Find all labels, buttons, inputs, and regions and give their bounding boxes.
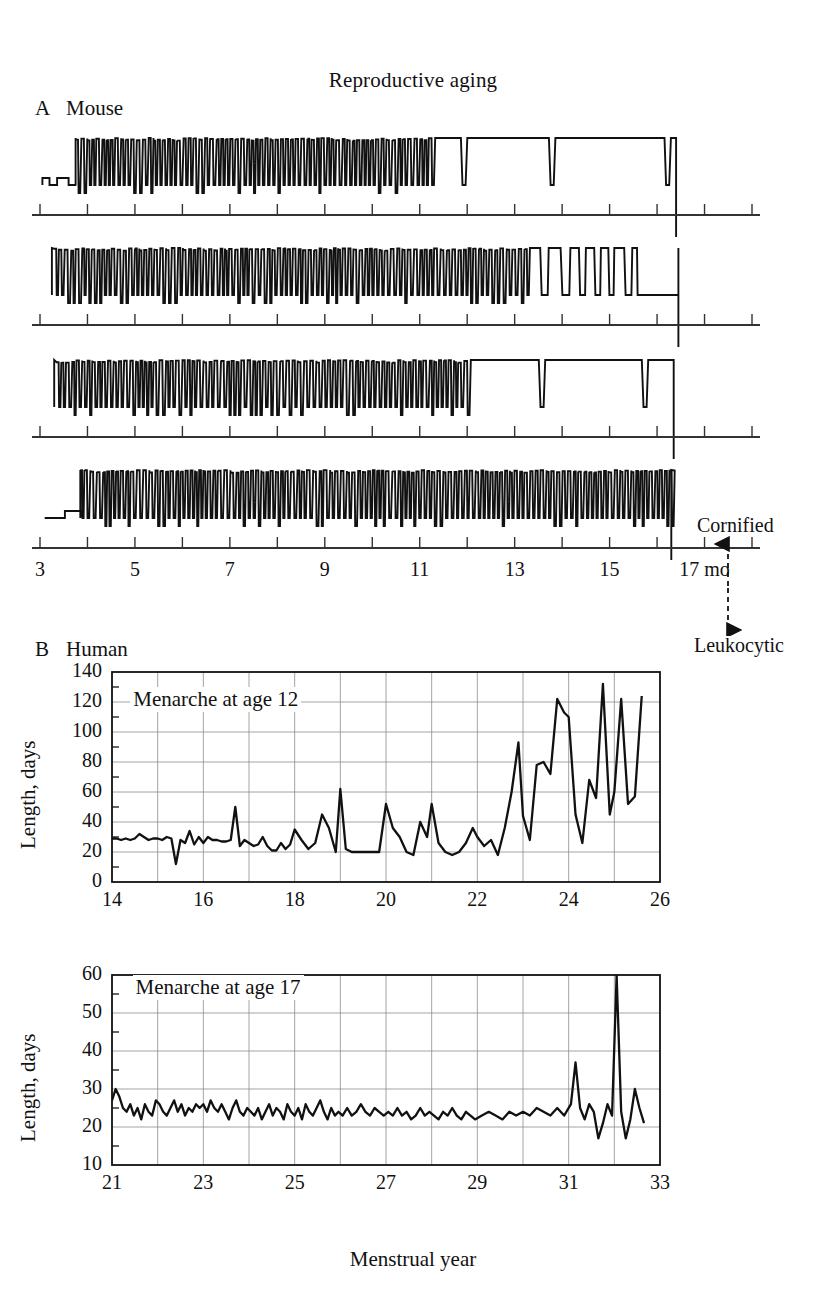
chart1-x-tick-16: 16	[163, 888, 243, 911]
mouse-estrous-traces	[0, 0, 826, 560]
chart1-y-tick-100: 100	[50, 719, 102, 742]
state-direction-arrow	[700, 536, 790, 636]
chart1-y-tick-120: 120	[50, 689, 102, 712]
chart1-y-tick-0: 0	[50, 869, 102, 892]
chart1-y-tick-20: 20	[50, 839, 102, 862]
mouse-x-tick-5: 5	[95, 558, 175, 581]
chart2-y-tick-50: 50	[50, 1000, 102, 1023]
chart1-x-tick-18: 18	[255, 888, 335, 911]
chart2-y-tick-60: 60	[50, 962, 102, 985]
chart2-y-tick-20: 20	[50, 1114, 102, 1137]
chart1-x-tick-24: 24	[529, 888, 609, 911]
leukocytic-label: Leukocytic	[694, 634, 784, 657]
chart-menarche-age-12	[0, 660, 826, 900]
chart1-x-tick-22: 22	[437, 888, 517, 911]
mouse-x-tick-9: 9	[285, 558, 365, 581]
chart2-x-tick-25: 25	[255, 1171, 335, 1194]
chart1-y-tick-40: 40	[50, 809, 102, 832]
mouse-x-tick-7: 7	[190, 558, 270, 581]
chart1-y-tick-140: 140	[50, 659, 102, 682]
chart1-annotation: Menarche at age 12	[130, 687, 301, 712]
x-axis-title: Menstrual year	[0, 1247, 826, 1272]
chart2-annotation: Menarche at age 17	[133, 975, 304, 1000]
chart2-y-tick-40: 40	[50, 1038, 102, 1061]
chart2-x-tick-29: 29	[437, 1171, 517, 1194]
chart2-x-tick-33: 33	[620, 1171, 700, 1194]
panel-b-letter: B	[35, 637, 49, 662]
chart1-y-tick-80: 80	[50, 749, 102, 772]
reproductive-aging-figure: Reproductive aging A Mouse 357911131517 …	[0, 0, 826, 1303]
chart2-x-tick-27: 27	[346, 1171, 426, 1194]
chart1-x-tick-26: 26	[620, 888, 700, 911]
mouse-x-tick-15: 15	[570, 558, 650, 581]
chart2-x-tick-31: 31	[529, 1171, 609, 1194]
chart1-y-tick-60: 60	[50, 779, 102, 802]
mouse-x-tick-13: 13	[475, 558, 555, 581]
mouse-x-tick-11: 11	[380, 558, 460, 581]
chart2-y-tick-30: 30	[50, 1076, 102, 1099]
chart-menarche-age-17	[0, 965, 826, 1185]
chart1-y-axis-title: Length, days	[16, 741, 41, 849]
mouse-x-tick-3: 3	[0, 558, 80, 581]
chart2-y-axis-title: Length, days	[16, 1034, 41, 1142]
chart1-x-tick-20: 20	[346, 888, 426, 911]
chart2-x-tick-23: 23	[163, 1171, 243, 1194]
cornified-label: Cornified	[697, 514, 774, 537]
chart2-y-tick-10: 10	[50, 1152, 102, 1175]
